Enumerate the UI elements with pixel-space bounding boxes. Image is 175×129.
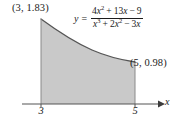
numer-term2-coef: 13 bbox=[114, 6, 124, 16]
x-tick-label-5: 5 bbox=[128, 105, 142, 116]
numer-op1: + bbox=[104, 6, 113, 16]
equation-numerator: 4x2+13x−9 bbox=[91, 7, 142, 17]
denom-term3-var: x bbox=[136, 19, 140, 29]
equation-equals-sign: = bbox=[81, 13, 91, 24]
x-axis-label: x bbox=[165, 96, 169, 107]
numer-term3: 9 bbox=[137, 6, 142, 16]
denom-op2: − bbox=[122, 19, 131, 29]
point-label-left: (3, 1.83) bbox=[12, 2, 49, 13]
function-equation: y = 4x2+13x−9 x3+2x2−3x bbox=[74, 7, 143, 30]
denom-op1: + bbox=[101, 19, 110, 29]
math-figure-region-under-curve: (3, 1.83) (5, 0.98) 3 5 x y = 4x2+13x−9 … bbox=[0, 0, 175, 129]
x-tick-label-3: 3 bbox=[34, 105, 48, 116]
shaded-region-under-curve bbox=[41, 19, 135, 104]
equation-denominator: x3+2x2−3x bbox=[92, 20, 141, 30]
equation-lhs: y bbox=[74, 13, 81, 24]
x-axis-arrowhead bbox=[158, 101, 165, 108]
equation-fraction: 4x2+13x−9 x3+2x2−3x bbox=[91, 7, 142, 30]
numer-op2: − bbox=[127, 6, 136, 16]
point-label-right: (5, 0.98) bbox=[130, 57, 167, 68]
